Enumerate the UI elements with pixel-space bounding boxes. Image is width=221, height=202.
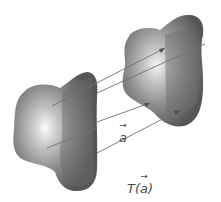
translated-blob: [123, 15, 204, 126]
original-blob: [13, 72, 97, 191]
vector-a-symbol: a: [119, 131, 127, 144]
transform-prefix: T(: [127, 181, 140, 196]
arrow-4b: [97, 110, 180, 153]
translation-diagram: a T(a): [0, 0, 221, 202]
transform-arg: a: [140, 182, 148, 195]
transform-label: T(a): [127, 182, 153, 195]
transform-suffix: ): [148, 181, 153, 196]
diagram-canvas: [0, 0, 221, 202]
vector-a-label: a: [119, 131, 127, 144]
